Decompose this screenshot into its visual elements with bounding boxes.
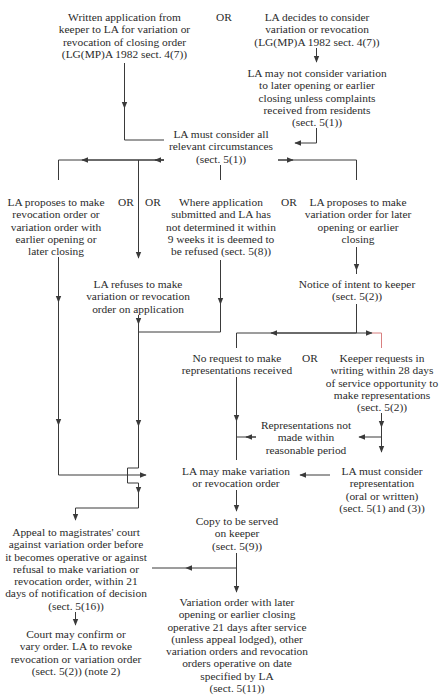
node-written-application: Written application from keeper to LA fo… <box>52 11 197 60</box>
or-label: OR <box>118 196 134 208</box>
or-label: OR <box>281 196 297 208</box>
flowchart-canvas: Written application from keeper to LA fo… <box>0 0 443 698</box>
node-no-request: No request to make representations recei… <box>180 352 294 377</box>
node-la-refuses: LA refuses to make variation or revocati… <box>82 278 194 315</box>
node-court-may-confirm: Court may confirm or vary order. LA to r… <box>6 628 146 677</box>
node-la-may-not-consider: LA may not consider variation to later o… <box>244 67 390 128</box>
node-representations-not-made: Representations not made within reasonab… <box>256 419 356 456</box>
or-label: OR <box>145 196 161 208</box>
node-copy-served: Copy to be served on keeper (sect. 5(9)) <box>186 515 288 552</box>
node-appeal: Appeal to magistrates' court against var… <box>2 526 150 612</box>
node-variation-operative: Variation order with later opening or ea… <box>162 596 312 694</box>
node-keeper-requests: Keeper requests in writing within 28 day… <box>322 352 442 413</box>
node-la-must-consider-representation: LA must consider representation (oral or… <box>330 465 434 514</box>
or-label: OR <box>302 352 318 364</box>
node-la-may-make: LA may make variation or revocation orde… <box>178 465 294 490</box>
node-la-proposes-variation: LA proposes to make variation order for … <box>302 196 414 245</box>
node-la-decides: LA decides to consider variation or revo… <box>246 11 388 48</box>
or-label: OR <box>216 11 232 23</box>
node-la-proposes-revocation: LA proposes to make revocation order or … <box>1 196 111 257</box>
node-la-must-consider-all: LA must consider all relevant circumstan… <box>164 128 278 165</box>
node-deemed-refused: Where application submitted and LA has n… <box>162 196 280 257</box>
node-notice-of-intent: Notice of intent to keeper (sect. 5(2)) <box>292 278 422 303</box>
